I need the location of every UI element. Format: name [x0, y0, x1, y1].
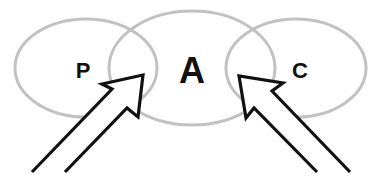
label-a: A — [179, 50, 205, 91]
label-c: C — [292, 58, 308, 83]
label-p: P — [76, 58, 91, 83]
pac-diagram: P A C — [0, 0, 382, 186]
left-arrow-icon — [32, 75, 143, 172]
right-arrow-icon — [239, 76, 350, 172]
